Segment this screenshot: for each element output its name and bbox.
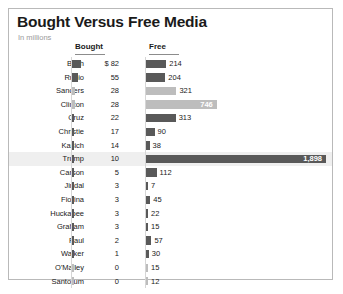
bought-value: 14: [93, 141, 119, 150]
bought-bar: [72, 182, 74, 190]
chart-frame: Bought Versus Free Media In millions Bou…: [8, 8, 333, 280]
bought-bar: [72, 223, 74, 231]
free-bar: [146, 277, 148, 285]
free-value: 90: [158, 127, 166, 136]
free-value: 45: [153, 195, 161, 204]
bought-value: 22: [93, 113, 119, 122]
free-bar: [146, 250, 149, 258]
free-value: 112: [160, 168, 172, 177]
bought-bar: [72, 128, 74, 136]
bought-value: $ 82: [93, 59, 119, 68]
column-header-bought: Bought: [75, 42, 103, 51]
free-bar: [146, 141, 150, 149]
table-row: Sanders28321: [9, 84, 332, 98]
bought-bar: [72, 155, 74, 163]
free-value: 7: [151, 181, 155, 190]
bought-bar: [72, 114, 74, 122]
table-row: Fiorina345: [9, 193, 332, 207]
table-row: Cruz22313: [9, 111, 332, 125]
bought-value: 0: [93, 263, 119, 272]
bought-value: 2: [93, 236, 119, 245]
table-row: Rubio55204: [9, 71, 332, 85]
free-bar: [146, 182, 148, 190]
candidate-name: Huckabee: [50, 209, 84, 218]
free-bar: [146, 168, 157, 176]
bought-value: 28: [93, 86, 119, 95]
bought-bar: [72, 73, 78, 81]
bought-value: 3: [93, 209, 119, 218]
table-row: Jindal37: [9, 179, 332, 193]
bought-value: 17: [93, 127, 119, 136]
free-bar: [146, 114, 176, 122]
free-value: 12: [151, 277, 159, 286]
table-row: Bush$ 82214: [9, 57, 332, 71]
table-row: Kasich1438: [9, 139, 332, 153]
table-row: Graham315: [9, 220, 332, 234]
bought-value: 3: [93, 222, 119, 231]
bought-value: 0: [93, 277, 119, 286]
bought-bar: [72, 60, 81, 68]
candidate-name: Jindal: [64, 181, 84, 190]
table-row: Huckabee322: [9, 207, 332, 221]
column-rule-bought: [75, 54, 105, 55]
table-row: Walker130: [9, 247, 332, 261]
bought-bar: [72, 100, 75, 108]
bought-bar: [72, 236, 74, 244]
bought-value: 3: [93, 181, 119, 190]
free-bar: [146, 236, 151, 244]
free-value: 57: [154, 236, 162, 245]
candidate-name: Santorum: [51, 277, 84, 286]
free-bar: [146, 60, 166, 68]
free-value: 204: [168, 73, 181, 82]
bought-bar: [72, 264, 74, 272]
bought-bar: [72, 87, 75, 95]
table-row: Clinton28746: [9, 98, 332, 112]
free-bar: [146, 87, 176, 95]
bought-value: 3: [93, 195, 119, 204]
table-row: Paul257: [9, 234, 332, 248]
bought-value: 10: [93, 154, 119, 163]
bought-value: 55: [93, 73, 119, 82]
free-value: 15: [151, 222, 159, 231]
bought-bar: [72, 141, 74, 149]
bought-value: 28: [93, 100, 119, 109]
table-row: Christie1790: [9, 125, 332, 139]
table-row: Carson5112: [9, 166, 332, 180]
free-value: 214: [169, 59, 182, 68]
free-bar: [146, 155, 326, 163]
free-value: 313: [179, 113, 192, 122]
bought-value: 5: [93, 168, 119, 177]
free-bar: [146, 128, 155, 136]
table-row: O'Malley015: [9, 261, 332, 275]
free-bar: [146, 196, 150, 204]
bought-bar: [72, 277, 74, 285]
column-rule-free: [149, 54, 179, 55]
table-row: Trump101,898: [9, 152, 332, 166]
chart-title: Bought Versus Free Media: [17, 13, 207, 31]
table-row: Santorum012: [9, 275, 332, 289]
free-value: 30: [152, 249, 160, 258]
bought-bar: [72, 250, 74, 258]
bought-bar: [72, 196, 74, 204]
bought-bar: [72, 168, 74, 176]
free-bar: [146, 264, 148, 272]
chart-rows: Bush$ 82214Rubio55204Sanders28321Clinton…: [9, 57, 332, 288]
free-value: 1,898: [302, 154, 322, 163]
free-value: 38: [153, 141, 161, 150]
candidate-name: O'Malley: [55, 263, 84, 272]
bought-value: 1: [93, 249, 119, 258]
free-bar: [146, 73, 165, 81]
free-value: 15: [151, 263, 159, 272]
chart-subtitle: In millions: [18, 33, 51, 42]
column-header-free: Free: [149, 42, 166, 51]
free-bar: [146, 209, 148, 217]
free-value: 22: [151, 209, 159, 218]
free-value: 746: [193, 100, 213, 109]
bought-bar: [72, 209, 74, 217]
free-bar: [146, 223, 148, 231]
free-value: 321: [179, 86, 192, 95]
